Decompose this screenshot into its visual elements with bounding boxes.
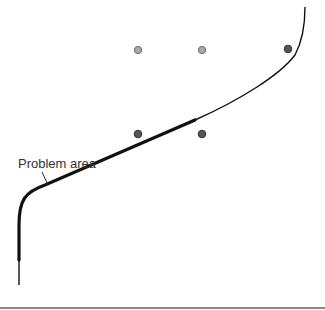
problem-area-segment — [19, 120, 195, 260]
dot — [284, 45, 292, 53]
dot — [198, 130, 206, 138]
dot — [134, 46, 141, 53]
baseline-divider — [0, 307, 325, 309]
dot — [198, 46, 205, 53]
annotation-leader-line — [42, 172, 48, 185]
curve-diagram — [0, 0, 325, 310]
problem-area-label: Problem area — [18, 156, 96, 171]
dots — [134, 45, 292, 138]
curve-line — [19, 7, 305, 285]
dot — [134, 130, 142, 138]
